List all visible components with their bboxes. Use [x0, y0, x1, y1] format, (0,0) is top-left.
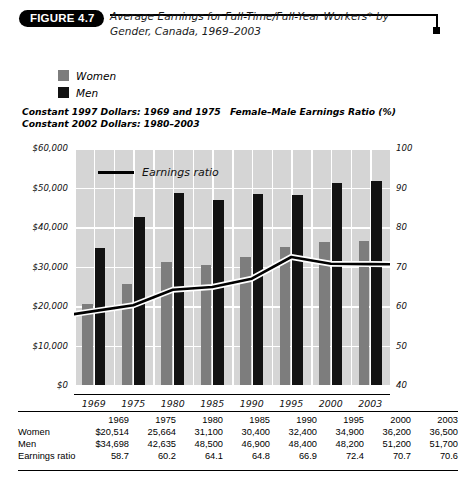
inline-legend-line-icon: [98, 171, 134, 174]
table-cell-1990: 32,400: [270, 426, 317, 438]
table-header-row: 19691975198019851990199520002003: [18, 414, 458, 426]
y-axis-label-left: $30,000: [8, 262, 68, 272]
table-body: Women$20,51425,66431,10030,40032,40034,9…: [18, 426, 458, 462]
table-column-header-2000: 2000: [364, 414, 411, 426]
constant-dollars-note-line2: Constant 2002 Dollars: 1980–2003: [22, 118, 221, 130]
x-axis-label-2000: 2000: [309, 398, 353, 409]
x-axis-label-1985: 1985: [190, 398, 234, 409]
y-axis-label-left: $20,000: [8, 301, 68, 311]
table-cell-1995: 34,900: [317, 426, 364, 438]
table-cell-1975: 25,664: [129, 426, 176, 438]
y-axis-label-left: $0: [8, 380, 68, 390]
x-axis-label-1980: 1980: [151, 398, 195, 409]
constant-dollars-note: Constant 1997 Dollars: 1969 and 1975 Con…: [22, 106, 221, 130]
table-column-header-1990: 1990: [270, 414, 317, 426]
x-axis-label-1995: 1995: [269, 398, 313, 409]
table-cell-1969: $20,514: [82, 426, 129, 438]
ratio-axis-title: Female–Male Earnings Ratio (%): [230, 106, 396, 118]
constant-dollars-note-line1: Constant 1997 Dollars: 1969 and 1975: [22, 106, 221, 118]
x-axis-label-1969: 1969: [72, 398, 116, 409]
table-cell-1985: 30,400: [223, 426, 270, 438]
table-cell-2000: 70.7: [364, 450, 411, 462]
table-cell-1975: 42,635: [129, 438, 176, 450]
table-cell-1995: 72.4: [317, 450, 364, 462]
table-cell-2003: 51,700: [411, 438, 458, 450]
inline-legend-label: Earnings ratio: [142, 166, 219, 179]
table-cell-1969: $34,698: [82, 438, 129, 450]
header-rule-endpoint-icon: [433, 27, 440, 34]
table-column-header-1995: 1995: [317, 414, 364, 426]
y-axis-label-right: 80: [396, 222, 436, 232]
table-row: Men$34,69842,63548,50046,90048,40048,200…: [18, 438, 458, 450]
table-row-label: Men: [18, 438, 82, 450]
table-cell-1980: 48,500: [176, 438, 223, 450]
chart-legend: Women Men: [58, 68, 116, 102]
inline-legend-earnings-ratio: Earnings ratio: [98, 166, 219, 179]
table-cell-1995: 48,200: [317, 438, 364, 450]
table-cell-1980: 64.1: [176, 450, 223, 462]
y-axis-label-right: 50: [396, 341, 436, 351]
table-column-header-1980: 1980: [176, 414, 223, 426]
figure-number-badge: FIGURE 4.7: [19, 10, 104, 27]
table-cell-2000: 51,200: [364, 438, 411, 450]
table-cell-1985: 46,900: [223, 438, 270, 450]
table-cell-1980: 31,100: [176, 426, 223, 438]
earnings-ratio-line: [74, 148, 390, 385]
data-table: 19691975198019851990199520002003 Women$2…: [18, 414, 458, 462]
table-cell-2000: 36,200: [364, 426, 411, 438]
chart-region: Earnings ratio $0$10,000$20,000$30,000$4…: [0, 138, 467, 400]
y-axis-label-left: $50,000: [8, 183, 68, 193]
figure-header: FIGURE 4.7 Average Earnings for Full-Tim…: [0, 0, 467, 56]
legend-label-women: Women: [76, 70, 116, 82]
x-axis-label-1975: 1975: [111, 398, 155, 409]
plot-area: Earnings ratio: [74, 148, 390, 385]
table-cell-1985: 64.8: [223, 450, 270, 462]
table-column-header-1969: 1969: [82, 414, 129, 426]
table-cell-2003: 36,500: [411, 426, 458, 438]
y-axis-label-right: 90: [396, 183, 436, 193]
table-bottom-rule: [18, 470, 458, 471]
table-cell-1990: 66.9: [270, 450, 317, 462]
table-row: Women$20,51425,66431,10030,40032,40034,9…: [18, 426, 458, 438]
y-axis-label-right: 70: [396, 262, 436, 272]
legend-label-men: Men: [76, 87, 98, 99]
table-cell-1969: 58.7: [82, 450, 129, 462]
table-cell-1990: 48,400: [270, 438, 317, 450]
figure-title: Average Earnings for Full-Time/Full-Year…: [110, 9, 430, 39]
y-axis-label-right: 60: [396, 301, 436, 311]
y-axis-label-left: $60,000: [8, 143, 68, 153]
y-axis-label-left: $40,000: [8, 222, 68, 232]
x-axis-label-1990: 1990: [230, 398, 274, 409]
table-column-header-2003: 2003: [411, 414, 458, 426]
table-column-header-1975: 1975: [129, 414, 176, 426]
y-axis-label-right: 100: [396, 143, 436, 153]
table-column-header-1985: 1985: [223, 414, 270, 426]
table-cell-2003: 70.6: [411, 450, 458, 462]
table-row-label: Earnings ratio: [18, 450, 82, 462]
table-row-label: Women: [18, 426, 82, 438]
legend-item-men: Men: [58, 85, 116, 100]
x-axis-label-2003: 2003: [348, 398, 392, 409]
legend-swatch-women-icon: [58, 70, 69, 81]
y-axis-label-left: $10,000: [8, 341, 68, 351]
table-top-rule: [18, 411, 458, 412]
legend-item-women: Women: [58, 68, 116, 83]
table-corner-cell: [18, 414, 82, 426]
legend-swatch-men-icon: [58, 87, 69, 98]
table-row: Earnings ratio58.760.264.164.866.972.470…: [18, 450, 458, 462]
table-cell-1975: 60.2: [129, 450, 176, 462]
x-axis-line: [74, 394, 390, 395]
y-axis-label-right: 40: [396, 380, 436, 390]
